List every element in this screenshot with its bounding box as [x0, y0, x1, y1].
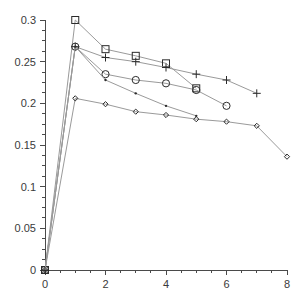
- series-diamond-series: [42, 96, 289, 273]
- series-polyline: [45, 98, 287, 270]
- y-tick-label: 0.1: [21, 181, 36, 193]
- y-tick-label: 0.25: [15, 56, 36, 68]
- x-tick-label: 8: [284, 278, 290, 290]
- series-circle-series: [41, 43, 230, 274]
- marker-dot: [165, 105, 167, 107]
- line-chart: 0246800.050.10.150.20.250.3: [0, 0, 302, 301]
- x-tick-label: 2: [102, 278, 108, 290]
- chart-series: [41, 17, 290, 275]
- chart-axes: [40, 20, 287, 275]
- x-tick-label: 6: [223, 278, 229, 290]
- marker-dot: [135, 92, 137, 94]
- chart-tick-labels: 0246800.050.10.150.20.250.3: [15, 14, 290, 290]
- x-tick-label: 0: [42, 278, 48, 290]
- marker-dot: [104, 79, 106, 81]
- series-square-series: [42, 17, 200, 274]
- marker-dot: [74, 45, 76, 47]
- y-tick-label: 0: [30, 264, 36, 276]
- y-tick-label: 0.3: [21, 14, 36, 26]
- y-tick-label: 0.15: [15, 139, 36, 151]
- series-polyline: [45, 47, 227, 270]
- y-tick-label: 0.05: [15, 222, 36, 234]
- y-tick-label: 0.2: [21, 97, 36, 109]
- series-plus-series: [41, 43, 261, 274]
- chart-figure: 0246800.050.10.150.20.250.3: [0, 0, 302, 301]
- series-polyline: [45, 20, 196, 270]
- x-tick-label: 4: [163, 278, 169, 290]
- series-dot-series: [44, 45, 198, 271]
